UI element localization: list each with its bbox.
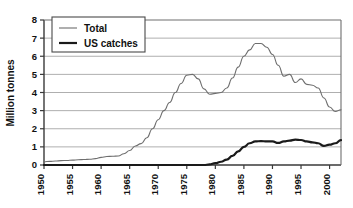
y-tick-label-4: 4 xyxy=(32,87,38,98)
x-tick-label-1970: 1970 xyxy=(149,174,160,195)
legend-label-total: Total xyxy=(84,23,107,34)
x-tick-label-1990: 1990 xyxy=(263,174,274,195)
legend-label-us-catches: US catches xyxy=(84,38,138,49)
line-chart: 012345678 195019551960196519701975198019… xyxy=(0,0,353,208)
y-tick-label-7: 7 xyxy=(32,33,37,44)
y-tick-label-2: 2 xyxy=(32,123,37,134)
y-tick-label-5: 5 xyxy=(32,69,38,80)
y-tick-label-0: 0 xyxy=(32,159,37,170)
chart-figure: 012345678 195019551960196519701975198019… xyxy=(0,0,353,208)
x-tick-label-1985: 1985 xyxy=(235,173,246,195)
y-axis-title: Million tonnes xyxy=(5,59,16,127)
x-tick-label-1965: 1965 xyxy=(121,173,132,195)
x-tick-label-1950: 1950 xyxy=(35,174,46,195)
y-tick-label-6: 6 xyxy=(32,51,37,62)
x-tick-label-1995: 1995 xyxy=(292,173,303,195)
legend: Total US catches xyxy=(52,17,145,52)
x-tick-label-2000: 2000 xyxy=(321,174,332,195)
x-tick-label-1955: 1955 xyxy=(64,173,75,195)
y-tick-label-8: 8 xyxy=(32,14,37,25)
x-tick-label-1975: 1975 xyxy=(178,173,189,195)
y-tick-label-1: 1 xyxy=(32,141,38,152)
x-tick-label-1960: 1960 xyxy=(92,174,103,195)
y-axis-tick-labels: 012345678 xyxy=(32,14,38,170)
x-tick-label-1980: 1980 xyxy=(206,174,217,195)
y-tick-label-3: 3 xyxy=(32,105,37,116)
